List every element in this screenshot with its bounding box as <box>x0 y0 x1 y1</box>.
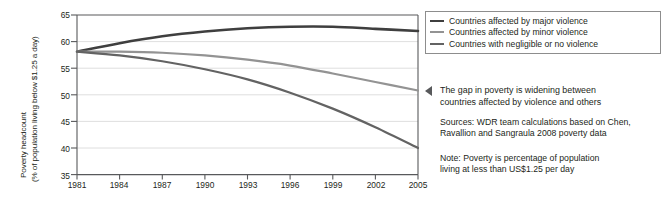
note-line-2: living at less than US$1.25 per day <box>440 164 665 175</box>
sources-line-1: Sources: WDR team calculations based on … <box>440 117 665 128</box>
legend: Countries affected by major violence Cou… <box>425 11 661 54</box>
data-series-layer <box>77 26 418 148</box>
legend-label-major-violence: Countries affected by major violence <box>449 16 588 26</box>
sources-note: Sources: WDR team calculations based on … <box>425 117 665 140</box>
callout-annotation-text: The gap in poverty is widening between c… <box>440 85 601 108</box>
legend-label-negligible-violence: Countries with negligible or no violence <box>449 39 598 49</box>
series-line-major-violence <box>77 26 418 51</box>
x-tick-marks <box>77 175 418 180</box>
methodology-note: Note: Poverty is percentage of populatio… <box>425 153 665 176</box>
gridlines <box>77 42 418 148</box>
triangle-left-icon <box>425 86 432 96</box>
callout-line-2: countries affected by violence and other… <box>440 97 601 107</box>
legend-label-minor-violence: Countries affected by minor violence <box>449 27 588 37</box>
legend-item-major-violence: Countries affected by major violence <box>430 15 656 27</box>
legend-item-negligible-violence: Countries with negligible or no violence <box>430 38 656 50</box>
note-line-1: Note: Poverty is percentage of populatio… <box>440 153 665 164</box>
poverty-headcount-chart-figure: Poverty headcount (% of population livin… <box>0 0 666 213</box>
legend-swatch-negligible-violence <box>430 43 444 45</box>
sources-line-2: Ravallion and Sangraula 2008 poverty dat… <box>440 128 665 139</box>
callout-annotation: The gap in poverty is widening between c… <box>425 85 665 108</box>
legend-swatch-major-violence <box>430 20 444 22</box>
series-line-negligible-violence <box>77 52 418 148</box>
y-tick-marks <box>71 15 77 175</box>
legend-item-minor-violence: Countries affected by minor violence <box>430 27 656 39</box>
callout-line-1: The gap in poverty is widening between <box>440 85 596 95</box>
legend-swatch-minor-violence <box>430 31 444 33</box>
